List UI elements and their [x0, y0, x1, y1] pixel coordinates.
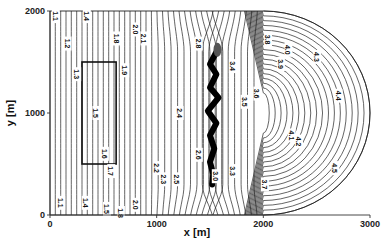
x-tick-label: 1000 [147, 219, 167, 229]
contour-label: 3.6 [253, 87, 261, 101]
svg-text:2.0: 2.0 [132, 25, 139, 35]
contour-label: 1.4 [83, 9, 91, 23]
contour-label: 3.9 [277, 57, 285, 71]
contour-label: 1.6 [101, 147, 109, 161]
contour-label: 1.1 [57, 196, 65, 210]
svg-text:1.9: 1.9 [121, 65, 128, 75]
x-tick-label: 3000 [360, 219, 380, 229]
svg-text:2.8: 2.8 [195, 39, 202, 49]
y-tick-label: 0 [40, 210, 45, 220]
svg-text:3.0: 3.0 [212, 171, 219, 181]
svg-text:4.1: 4.1 [288, 131, 295, 141]
x-tick-label: 2000 [253, 219, 273, 229]
contour-label: 3.3 [229, 164, 237, 178]
contour-label: 4.1 [288, 128, 296, 142]
svg-text:3.9: 3.9 [277, 59, 284, 69]
crack-feature [208, 43, 222, 185]
contour-label: 4.3 [313, 50, 321, 64]
contour-label: 2.8 [195, 37, 203, 51]
contour-label: 1.5 [92, 106, 100, 120]
contour-label: 2.0 [132, 198, 140, 212]
contour-label: 1.2 [64, 37, 72, 51]
svg-text:1.8: 1.8 [113, 34, 120, 44]
svg-text:1.5: 1.5 [92, 108, 99, 118]
contour-label: 4.2 [295, 135, 303, 149]
svg-text:1.2: 1.2 [64, 39, 71, 49]
contour-label: 3.0 [212, 169, 220, 183]
contour-label: 2.3 [160, 172, 168, 186]
contour-label: 1.5 [103, 202, 111, 216]
svg-text:4.3: 4.3 [313, 52, 320, 62]
svg-text:4.0: 4.0 [284, 45, 291, 55]
svg-text:1.6: 1.6 [101, 149, 108, 159]
contour-label: 1.8 [113, 32, 121, 46]
svg-text:4.5: 4.5 [331, 163, 338, 173]
contour-label: 2.4 [176, 106, 184, 120]
contour-label: 4.4 [335, 89, 343, 103]
contour-label: 2.6 [195, 148, 203, 162]
contour-label: 2.0 [132, 22, 140, 36]
svg-text:1.1: 1.1 [57, 198, 64, 208]
svg-text:4.2: 4.2 [295, 137, 302, 147]
contour-label: 4.0 [284, 43, 292, 57]
y-axis-label: y [m] [4, 100, 16, 127]
svg-text:1.7: 1.7 [107, 166, 114, 176]
svg-text:1.3: 1.3 [73, 69, 80, 79]
x-axis-label: x [m] [184, 226, 211, 238]
svg-text:3.3: 3.3 [229, 166, 236, 176]
svg-text:2.1: 2.1 [140, 34, 147, 44]
svg-text:2.5: 2.5 [173, 174, 180, 184]
svg-text:3.4: 3.4 [229, 61, 236, 71]
x-tick-label: 0 [47, 219, 52, 229]
svg-text:1.8: 1.8 [117, 208, 124, 218]
y-tick-label: 2000 [25, 6, 45, 16]
contour-label: 1.4 [82, 196, 90, 210]
svg-text:3.7: 3.7 [261, 180, 268, 190]
y-tick-label: 1000 [25, 108, 45, 118]
contour-label: 3.8 [264, 33, 272, 47]
svg-text:1.4: 1.4 [82, 198, 89, 208]
contour-label: 2.5 [173, 172, 181, 186]
contour-label: 3.5 [241, 95, 249, 109]
contour-label: 3.4 [229, 59, 237, 73]
contour-label: 1.7 [107, 164, 115, 178]
svg-text:4.4: 4.4 [335, 91, 342, 101]
svg-text:2.4: 2.4 [176, 108, 183, 118]
svg-text:2.0: 2.0 [132, 200, 139, 210]
svg-text:3.8: 3.8 [264, 35, 271, 45]
svg-text:2.2: 2.2 [153, 163, 160, 173]
contour-label: 1.8 [117, 206, 125, 220]
contour-label: 1.9 [121, 63, 129, 77]
svg-text:1.5: 1.5 [103, 204, 110, 214]
svg-text:3.6: 3.6 [253, 89, 260, 99]
contour-label: 4.5 [331, 161, 339, 175]
svg-text:2.6: 2.6 [195, 150, 202, 160]
svg-text:1.1: 1.1 [52, 11, 59, 21]
contour-chart: 1.11.21.31.41.51.61.71.81.92.02.12.22.32… [0, 0, 389, 247]
contour-label: 2.1 [140, 32, 148, 46]
svg-text:1.4: 1.4 [83, 11, 90, 21]
contour-label: 3.7 [261, 177, 269, 191]
contour-label: 1.3 [73, 67, 81, 81]
contour-label: 1.1 [52, 9, 60, 23]
svg-text:3.5: 3.5 [241, 97, 248, 107]
svg-text:2.3: 2.3 [160, 174, 167, 184]
